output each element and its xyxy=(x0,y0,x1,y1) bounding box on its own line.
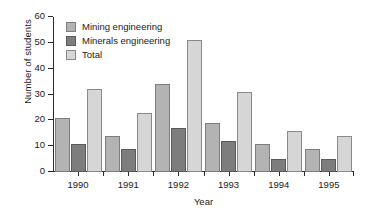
bar-mining-1992 xyxy=(155,84,170,172)
x-tick-label: 1991 xyxy=(118,179,139,190)
bar-mining-1991 xyxy=(105,136,120,172)
legend: Mining engineering Minerals engineering … xyxy=(66,20,170,62)
bar-minerals-1990 xyxy=(71,144,86,172)
legend-label-minerals: Minerals engineering xyxy=(82,35,170,46)
y-tick: 30 xyxy=(48,94,53,95)
legend-item-mining: Mining engineering xyxy=(66,20,170,33)
bar-total-1992 xyxy=(187,40,202,172)
bar-total-1993 xyxy=(237,92,252,172)
bar-total-1995 xyxy=(337,136,352,172)
x-tick-label: 1990 xyxy=(68,179,89,190)
bar-total-1990 xyxy=(87,89,102,172)
y-tick-label: 60 xyxy=(34,10,45,21)
x-tick-label: 1994 xyxy=(268,179,289,190)
legend-item-minerals: Minerals engineering xyxy=(66,34,170,47)
x-tick-label: 1995 xyxy=(318,179,339,190)
y-axis-title: Number of students xyxy=(22,0,33,137)
bar-minerals-1995 xyxy=(321,159,336,172)
legend-swatch-minerals-icon xyxy=(66,36,76,46)
x-tick xyxy=(229,172,230,176)
bar-minerals-1994 xyxy=(271,159,286,172)
bar-mining-1995 xyxy=(305,149,320,172)
legend-swatch-mining-icon xyxy=(66,22,76,32)
x-tick-label: 1992 xyxy=(168,179,189,190)
y-tick-label: 30 xyxy=(34,88,45,99)
y-tick-label: 10 xyxy=(34,139,45,150)
y-tick: 20 xyxy=(48,119,53,120)
bar-total-1991 xyxy=(137,113,152,172)
bar-minerals-1991 xyxy=(121,149,136,172)
x-tick xyxy=(329,172,330,176)
x-tick-boundary xyxy=(204,172,205,176)
legend-item-total: Total xyxy=(66,48,170,61)
x-tick xyxy=(279,172,280,176)
legend-label-mining: Mining engineering xyxy=(82,21,162,32)
bar-minerals-1992 xyxy=(171,128,186,172)
legend-swatch-total-icon xyxy=(66,50,76,60)
x-tick-boundary xyxy=(153,172,154,176)
y-tick: 60 xyxy=(48,16,53,17)
legend-label-total: Total xyxy=(82,49,102,60)
y-tick-label: 0 xyxy=(40,165,45,176)
y-tick-label: 20 xyxy=(34,113,45,124)
bar-mining-1990 xyxy=(55,118,70,172)
bar-total-1994 xyxy=(287,131,302,172)
x-tick-boundary xyxy=(254,172,255,176)
x-axis-title: Year xyxy=(53,196,354,207)
bar-chart: Number of students 0102030405060 1990199… xyxy=(0,0,370,220)
x-tick xyxy=(128,172,129,176)
x-tick-boundary xyxy=(103,172,104,176)
y-tick: 50 xyxy=(48,42,53,43)
y-tick-label: 40 xyxy=(34,62,45,73)
bar-mining-1994 xyxy=(255,144,270,172)
x-tick xyxy=(78,172,79,176)
x-tick-boundary xyxy=(353,172,354,176)
bar-mining-1993 xyxy=(205,123,220,172)
x-tick-boundary xyxy=(304,172,305,176)
y-tick: 10 xyxy=(48,145,53,146)
y-tick-label: 50 xyxy=(34,36,45,47)
x-tick-label: 1993 xyxy=(218,179,239,190)
x-tick xyxy=(178,172,179,176)
y-tick: 0 xyxy=(48,171,53,172)
bar-minerals-1993 xyxy=(221,141,236,172)
y-tick: 40 xyxy=(48,68,53,69)
